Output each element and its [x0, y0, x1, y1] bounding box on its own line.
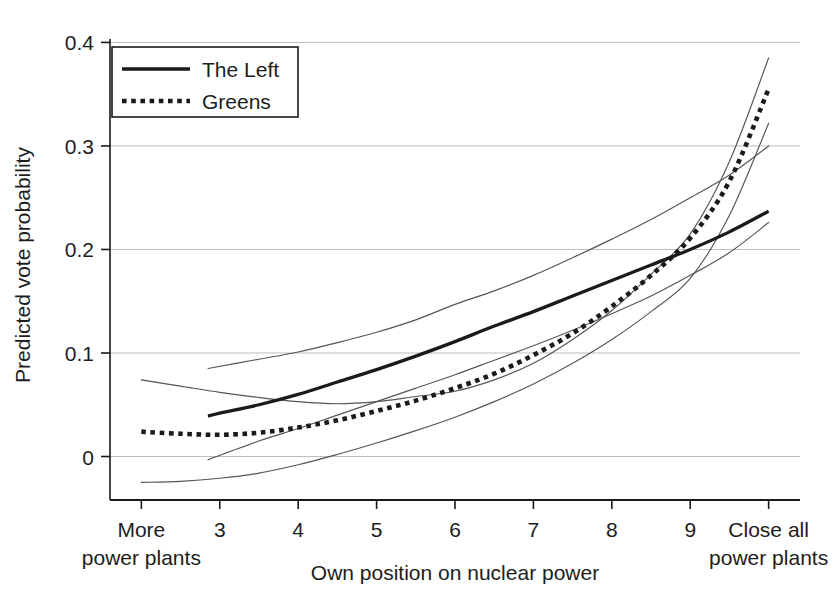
x-tick-label-0: More: [117, 518, 165, 541]
x-tick-label-5: 7: [528, 518, 540, 541]
x-tick-label-2: 4: [292, 518, 304, 541]
legend[interactable]: The LeftGreens: [112, 47, 298, 117]
x-tick-label-4: 6: [449, 518, 461, 541]
x-tick-label-8: Close all: [728, 518, 809, 541]
vote-probability-line-chart: 00.10.20.30.4Morepower plants3456789Clos…: [0, 0, 835, 615]
y-tick-label-0: 0: [82, 446, 94, 469]
y-tick-label-0.3: 0.3: [65, 135, 94, 158]
y-axis-title: Predicted vote probability: [11, 147, 34, 383]
x-tick-label-8-line2: power plants: [709, 546, 828, 569]
x-tick-label-6: 8: [606, 518, 618, 541]
x-tick-label-0-line2: power plants: [82, 546, 201, 569]
y-tick-label-0.2: 0.2: [65, 238, 94, 261]
x-axis-title: Own position on nuclear power: [311, 561, 599, 584]
x-tick-label-3: 5: [371, 518, 383, 541]
legend-label-the-left: The Left: [202, 58, 279, 81]
y-tick-label-0.4: 0.4: [65, 31, 95, 54]
x-tick-label-1: 3: [214, 518, 226, 541]
y-tick-label-0.1: 0.1: [65, 342, 94, 365]
legend-label-greens: Greens: [202, 90, 271, 113]
x-tick-label-7: 9: [684, 518, 696, 541]
chart-figure: 00.10.20.30.4Morepower plants3456789Clos…: [0, 0, 835, 615]
